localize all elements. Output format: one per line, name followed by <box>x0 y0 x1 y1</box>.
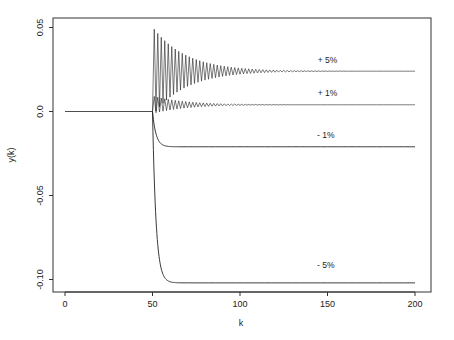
x-tick-label: 200 <box>407 299 422 309</box>
series-label: - 5% <box>317 260 335 270</box>
series-annotations: + 5%+ 1%- 1%- 5% <box>317 55 338 270</box>
series-label: - 1% <box>317 130 335 140</box>
y-axis: 0.050.0-0.05-0.10 <box>35 19 53 290</box>
y-tick-label: 0.05 <box>35 19 45 37</box>
series-line <box>153 112 416 283</box>
series-line <box>153 96 416 112</box>
x-tick-label: 0 <box>62 299 67 309</box>
x-tick-label: 100 <box>232 299 247 309</box>
series-line <box>153 29 416 111</box>
x-axis: 050100150200 <box>62 292 422 309</box>
x-tick-label: 50 <box>147 299 157 309</box>
x-axis-label: k <box>239 318 244 328</box>
line-chart: 050100150200 0.050.0-0.05-0.10 k y(k) + … <box>0 0 454 340</box>
plot-frame <box>53 18 431 292</box>
y-tick-label: -0.10 <box>35 269 45 290</box>
series-lines <box>65 29 415 283</box>
x-tick-label: 150 <box>320 299 335 309</box>
y-tick-label: 0.0 <box>35 105 45 118</box>
y-tick-label: -0.05 <box>35 185 45 206</box>
series-line <box>153 112 416 147</box>
series-label: + 5% <box>318 55 338 65</box>
series-label: + 1% <box>318 88 338 98</box>
y-axis-label: y(k) <box>6 148 16 163</box>
